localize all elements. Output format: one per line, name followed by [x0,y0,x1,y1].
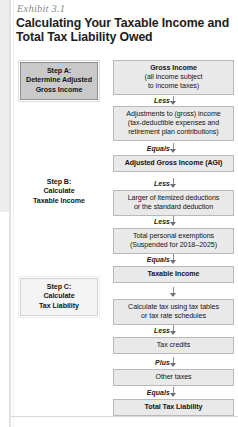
flow-box-personal-exemptions-sub1: (Suspended for 2018–2025) [117,241,230,250]
page-margin-rule [9,0,11,427]
arrow-down-icon [170,293,176,297]
flow-box-gross-income-sub2: to income taxes) [117,82,230,91]
arrow-down-icon [170,101,176,105]
flow-box-personal-exemptions-title: Total personal exemptions [117,232,230,241]
flow-box-taxable-income-title: Taxable Income [117,270,230,279]
flow-box-total-tax-liability-title: Total Tax Liability [117,403,230,412]
arrow-down-icon [170,149,176,153]
arrow-down-icon [170,363,176,367]
connector-operator-label: Less [154,180,170,187]
flow-box-adjustments-sub2: retirement plan contributions) [117,128,230,137]
connector-operator-label: Less [154,327,170,334]
connector-operator-label: Equals [147,256,170,263]
step-a-line2: Determine Adjusted [23,76,95,85]
flow-box-deductions-title: Larger of itemized deductions [117,194,230,203]
connector-plain [113,287,234,299]
arrow-down-icon [170,260,176,264]
flow-box-agi: Adjusted Gross Income (AGI) [113,155,234,172]
flow-box-deductions-sub1: or the standard deduction [117,203,230,212]
flow-box-calculate-tax-title: Calculate tax using tax tables [117,303,230,312]
flow-box-other-taxes-title: Other taxes [117,373,230,382]
connector-operator-label: Equals [147,389,170,396]
step-c-line2: Calculate [23,292,95,301]
arrow-down-icon [170,222,176,226]
arrow-down-icon [170,393,176,397]
flow-box-gross-income-title: Gross Income [117,64,230,73]
connector-less-1: Less [113,96,234,106]
connector-plus: Plus [113,357,234,369]
flow-box-other-taxes: Other taxes [113,369,234,386]
connector-operator-label: Less [154,218,170,225]
step-b-line2: Calculate [22,187,96,196]
flow-box-tax-credits: Tax credits [113,337,234,354]
step-b-box: Step B: Calculate Taxable Income [20,174,98,210]
connector-operator-label: Less [154,97,170,104]
connector-equals-1: Equals [113,143,234,155]
page-margin-rule-inner [13,0,14,427]
arrow-down-icon [170,184,176,188]
arrow-down-icon [170,331,176,335]
exhibit-page: Exhibit 3.1 Calculating Your Taxable Inc… [0,0,238,427]
exhibit-label: Exhibit 3.1 [17,3,65,14]
flow-box-agi-title: Adjusted Gross Income (AGI) [117,159,230,168]
step-b-line1: Step B: [22,178,96,187]
flow-box-calculate-tax: Calculate tax using tax tables or tax ra… [113,299,234,325]
flow-box-gross-income-sub1: (all income subject [117,73,230,82]
connector-less-4: Less [113,325,234,337]
connector-operator-label: Equals [147,145,170,152]
exhibit-title: Calculating Your Taxable Income and Tota… [16,16,234,44]
flow-box-gross-income: Gross Income (all income subject to inco… [113,60,234,95]
flow-box-tax-credits-title: Tax credits [117,341,230,350]
step-a-box: Step A: Determine Adjusted Gross Income [20,62,98,100]
flow-box-deductions: Larger of itemized deductions or the sta… [113,190,234,216]
step-c-line3: Tax Liability [23,302,95,311]
page-margin-stripe [0,0,9,212]
flow-box-adjustments-title: Adjustments to (gross) income [117,110,230,119]
step-c-box: Step C: Calculate Tax Liability [20,278,98,316]
flow-box-adjustments: Adjustments to (gross) income (tax-deduc… [113,106,234,141]
step-a-line3: Gross Income [23,86,95,95]
connector-equals-3: Equals [113,387,234,399]
bottom-divider [11,416,238,417]
connector-equals-2: Equals [113,254,234,266]
flow-box-total-tax-liability: Total Tax Liability [113,399,234,416]
flow-box-calculate-tax-sub1: or tax rate schedules [117,312,230,321]
connector-less-3: Less [113,216,234,228]
flow-box-taxable-income: Taxable Income [113,266,234,283]
step-c-line1: Step C: [23,283,95,292]
connector-operator-label: Plus [155,359,170,366]
step-a-line1: Step A: [23,67,95,76]
step-b-line3: Taxable Income [22,197,96,206]
flow-box-adjustments-sub1: (tax-deductible expenses and [117,119,230,128]
flow-box-personal-exemptions: Total personal exemptions (Suspended for… [113,228,234,254]
connector-less-2: Less [113,178,234,190]
